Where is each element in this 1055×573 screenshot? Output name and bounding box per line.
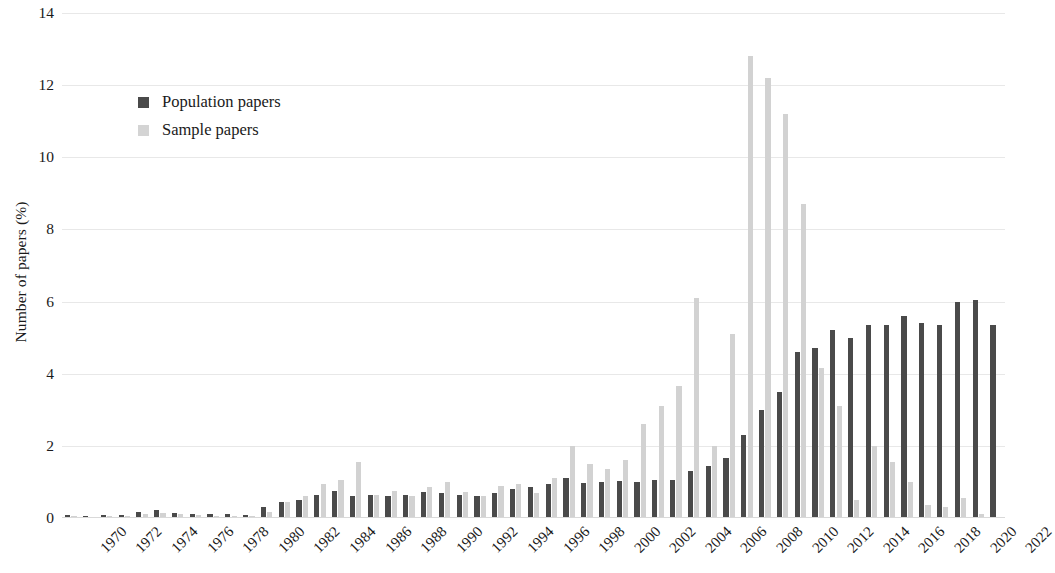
bar bbox=[765, 78, 770, 518]
x-tick-label: 1988 bbox=[418, 524, 450, 556]
bar bbox=[812, 348, 817, 518]
bar bbox=[830, 330, 835, 518]
bar bbox=[623, 460, 628, 518]
bar bbox=[837, 406, 842, 518]
bar bbox=[795, 352, 800, 518]
bar bbox=[955, 302, 960, 518]
bar-group bbox=[347, 13, 365, 518]
bar bbox=[445, 482, 450, 518]
x-tick-label: 1982 bbox=[311, 524, 343, 556]
bar-group bbox=[863, 13, 881, 518]
x-tick-label: 1974 bbox=[169, 524, 201, 556]
bar bbox=[777, 392, 782, 518]
bar bbox=[848, 338, 853, 518]
bar bbox=[730, 334, 735, 518]
bar-group bbox=[364, 13, 382, 518]
y-tick-label: 10 bbox=[8, 150, 54, 166]
x-tick-label: 1984 bbox=[347, 524, 379, 556]
bar-group bbox=[382, 13, 400, 518]
bar-group bbox=[62, 13, 80, 518]
bar bbox=[723, 458, 728, 518]
bar bbox=[392, 491, 397, 518]
bar-group bbox=[115, 13, 133, 518]
x-tick-label: 1970 bbox=[98, 524, 130, 556]
bar bbox=[516, 484, 521, 518]
bar bbox=[694, 298, 699, 518]
y-axis-tick-labels: 14121086420 bbox=[0, 13, 54, 518]
bar bbox=[676, 386, 681, 518]
bar-group bbox=[418, 13, 436, 518]
bar-group bbox=[738, 13, 756, 518]
bar bbox=[374, 495, 379, 518]
bar-group bbox=[507, 13, 525, 518]
bar bbox=[581, 483, 586, 518]
x-tick-label: 2004 bbox=[703, 524, 735, 556]
bar-group bbox=[98, 13, 116, 518]
x-tick-label: 1980 bbox=[276, 524, 308, 556]
bar bbox=[546, 484, 551, 518]
x-axis-tick-labels: 1970197219741976197819801982198419861988… bbox=[62, 518, 1005, 573]
bar-group bbox=[791, 13, 809, 518]
bar-group bbox=[756, 13, 774, 518]
x-tick-label: 2008 bbox=[774, 524, 806, 556]
y-tick-label: 6 bbox=[8, 294, 54, 310]
legend-label: Population papers bbox=[162, 94, 281, 111]
bar-group bbox=[685, 13, 703, 518]
x-tick-label: 2006 bbox=[738, 524, 770, 556]
bar-group bbox=[720, 13, 738, 518]
bar bbox=[552, 478, 557, 518]
bar-group bbox=[400, 13, 418, 518]
x-tick-label: 2002 bbox=[667, 524, 699, 556]
bar-group bbox=[489, 13, 507, 518]
bar-group bbox=[667, 13, 685, 518]
bar bbox=[670, 480, 675, 518]
bar-group bbox=[631, 13, 649, 518]
bar bbox=[587, 464, 592, 518]
bar bbox=[303, 496, 308, 518]
bar bbox=[409, 496, 414, 518]
legend-item[interactable]: Population papers bbox=[138, 88, 281, 116]
bar bbox=[481, 496, 486, 518]
bar bbox=[421, 492, 426, 518]
bar bbox=[706, 466, 711, 518]
legend-swatch-icon bbox=[138, 125, 149, 136]
bar bbox=[314, 495, 319, 518]
bar-group bbox=[293, 13, 311, 518]
bar bbox=[279, 502, 284, 518]
bar bbox=[819, 368, 824, 518]
bar bbox=[759, 410, 764, 518]
x-tick-label: 1972 bbox=[133, 524, 165, 556]
x-tick-label: 1998 bbox=[596, 524, 628, 556]
x-tick-label: 1990 bbox=[454, 524, 486, 556]
bar-group bbox=[542, 13, 560, 518]
bar bbox=[741, 435, 746, 518]
bar bbox=[498, 486, 503, 518]
bar bbox=[908, 482, 913, 518]
x-tick-label: 1994 bbox=[525, 524, 557, 556]
bar bbox=[605, 469, 610, 518]
bar bbox=[457, 495, 462, 518]
bar bbox=[937, 325, 942, 518]
bar bbox=[563, 478, 568, 518]
bar bbox=[463, 492, 468, 518]
x-tick-label: 2016 bbox=[916, 524, 948, 556]
y-tick-label: 4 bbox=[8, 366, 54, 382]
y-tick-label: 2 bbox=[8, 438, 54, 454]
legend-item[interactable]: Sample papers bbox=[138, 116, 281, 144]
bar bbox=[356, 462, 361, 518]
bar-group bbox=[471, 13, 489, 518]
bar bbox=[872, 446, 877, 518]
bar bbox=[884, 325, 889, 518]
bar-group bbox=[578, 13, 596, 518]
bar bbox=[919, 323, 924, 518]
x-tick-label: 2018 bbox=[952, 524, 984, 556]
bar bbox=[783, 114, 788, 518]
x-tick-label: 1996 bbox=[560, 524, 592, 556]
bar-group bbox=[916, 13, 934, 518]
x-tick-label: 2010 bbox=[809, 524, 841, 556]
x-tick-label: 1986 bbox=[382, 524, 414, 556]
bar bbox=[385, 496, 390, 518]
bar bbox=[296, 500, 301, 518]
bar bbox=[534, 493, 539, 518]
